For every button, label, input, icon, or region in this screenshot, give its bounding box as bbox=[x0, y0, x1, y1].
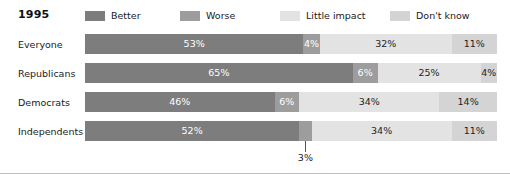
bar-segment-worse[interactable]: 4% bbox=[303, 34, 319, 54]
bar-segment-value: 6% bbox=[358, 68, 373, 78]
bar-segment-value: 52% bbox=[182, 126, 203, 136]
bar-segment-value: 4% bbox=[481, 68, 496, 78]
legend-item-dont-know[interactable]: Don't know bbox=[390, 9, 470, 23]
legend-item-label: Worse bbox=[206, 11, 235, 21]
legend-swatch-icon bbox=[390, 11, 410, 21]
bar-segment-dont-know[interactable]: 4% bbox=[481, 63, 497, 83]
stacked-bar: 52%3%3%34%11% bbox=[85, 121, 497, 141]
chart-header: 1995 BetterWorseLittle impactDon't know bbox=[0, 0, 510, 30]
bottom-divider bbox=[0, 173, 510, 174]
callout-leader-line bbox=[305, 141, 306, 152]
legend-item-label: Don't know bbox=[416, 11, 470, 21]
bar-segment-better[interactable]: 46% bbox=[85, 92, 275, 112]
chart-row: Republicans65%6%25%4% bbox=[0, 63, 510, 83]
bar-segment-value: 11% bbox=[464, 39, 485, 49]
bar-segment-little-impact[interactable]: 32% bbox=[320, 34, 452, 54]
bar-segment-worse[interactable]: 3%3% bbox=[299, 121, 311, 141]
row-label-everyone: Everyone bbox=[18, 34, 63, 54]
bar-segment-worse[interactable]: 6% bbox=[353, 63, 378, 83]
bar-segment-value: 34% bbox=[371, 126, 392, 136]
chart-row: Independents52%3%3%34%11% bbox=[0, 121, 510, 141]
bar-segment-little-impact[interactable]: 34% bbox=[299, 92, 439, 112]
chart-row: Democrats46%6%34%14% bbox=[0, 92, 510, 112]
stacked-bar: 53%4%32%11% bbox=[85, 34, 497, 54]
bar-segment-dont-know[interactable]: 14% bbox=[439, 92, 497, 112]
legend-swatch-icon bbox=[180, 11, 200, 21]
page-title: 1995 bbox=[18, 8, 49, 21]
bar-segment-value: 46% bbox=[169, 97, 190, 107]
legend-item-label: Better bbox=[111, 11, 141, 21]
callout-value-label: 3% bbox=[294, 153, 316, 163]
bar-segment-value: 14% bbox=[458, 97, 479, 107]
bar-segment-worse[interactable]: 6% bbox=[275, 92, 300, 112]
row-label-democrats: Democrats bbox=[18, 92, 70, 112]
legend-item-worse[interactable]: Worse bbox=[180, 9, 235, 23]
stacked-bar: 46%6%34%14% bbox=[85, 92, 497, 112]
legend-item-label: Little impact bbox=[306, 11, 366, 21]
bar-segment-value: 6% bbox=[279, 97, 294, 107]
bar-segment-value: 34% bbox=[359, 97, 380, 107]
bar-segment-value: 4% bbox=[304, 39, 319, 49]
bar-segment-better[interactable]: 52% bbox=[85, 121, 299, 141]
legend-item-little-impact[interactable]: Little impact bbox=[280, 9, 366, 23]
bar-segment-value: 65% bbox=[208, 68, 229, 78]
bar-segment-little-impact[interactable]: 34% bbox=[312, 121, 452, 141]
stacked-bar: 65%6%25%4% bbox=[85, 63, 497, 83]
bar-segment-little-impact[interactable]: 25% bbox=[378, 63, 481, 83]
bar-segment-dont-know[interactable]: 11% bbox=[452, 34, 497, 54]
bar-segment-value: 32% bbox=[375, 39, 396, 49]
bar-segment-value: 25% bbox=[418, 68, 439, 78]
bar-segment-better[interactable]: 65% bbox=[85, 63, 353, 83]
chart-legend: BetterWorseLittle impactDon't know bbox=[85, 9, 505, 25]
bar-segment-value: 53% bbox=[184, 39, 205, 49]
legend-item-better[interactable]: Better bbox=[85, 9, 141, 23]
bar-segment-value: 11% bbox=[464, 126, 485, 136]
row-label-independents: Independents bbox=[18, 121, 83, 141]
bar-segment-dont-know[interactable]: 11% bbox=[452, 121, 497, 141]
row-label-republicans: Republicans bbox=[18, 63, 75, 83]
legend-swatch-icon bbox=[280, 11, 300, 21]
chart-row: Everyone53%4%32%11% bbox=[0, 34, 510, 54]
chart-plot-area: Everyone53%4%32%11%Republicans65%6%25%4%… bbox=[0, 30, 510, 148]
stacked-bar-chart: 1995 BetterWorseLittle impactDon't know … bbox=[0, 0, 510, 174]
legend-swatch-icon bbox=[85, 11, 105, 21]
bar-segment-better[interactable]: 53% bbox=[85, 34, 303, 54]
